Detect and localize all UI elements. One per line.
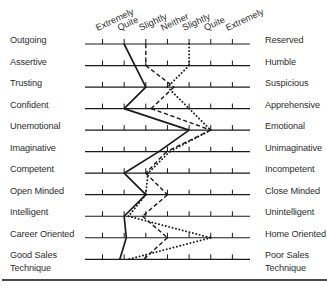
- series-solid-point: [145, 86, 146, 87]
- left-pole-label: Competent: [10, 163, 54, 176]
- series-dotted-point: [128, 259, 129, 260]
- series-dotted-point: [189, 108, 190, 109]
- bottom-divider: [2, 279, 327, 281]
- series-dashed-point: [167, 194, 168, 195]
- series-dotted-segment: [128, 195, 145, 217]
- scale-header-group: ExtremelyQuiteSlightlyNeitherSlightlyQui…: [94, 6, 266, 32]
- series-dashed-segment: [143, 195, 168, 217]
- series-dotted-point: [189, 65, 190, 66]
- left-pole-label: Assertive: [10, 56, 47, 69]
- left-pole-label: Confident: [10, 99, 48, 112]
- series-dotted-segment: [128, 238, 210, 260]
- series-solid-point: [124, 216, 125, 217]
- series-dashed-point: [145, 65, 146, 66]
- right-pole-label: Close Minded: [265, 185, 320, 198]
- series-solid-segment: [120, 238, 126, 260]
- series-dashed-point: [145, 43, 146, 44]
- right-pole-label: Suspicious: [265, 77, 308, 90]
- left-pole-label: Good Sales Technique: [10, 249, 68, 275]
- series-solid-segment: [124, 173, 146, 195]
- right-pole-label: Humble: [265, 56, 296, 69]
- series-solid-segment: [135, 66, 146, 88]
- series-dotted-segment: [170, 130, 211, 152]
- semantic-differential-chart: ExtremelyQuiteSlightlyNeitherSlightlyQui…: [0, 0, 327, 289]
- series-solid-point: [134, 65, 135, 66]
- series-dashed-segment: [144, 238, 168, 260]
- series-dotted-segment: [167, 87, 189, 109]
- series-dotted-segment: [189, 109, 211, 131]
- series-dotted-point: [189, 43, 190, 44]
- series-solid-segment: [124, 195, 146, 217]
- series-dotted-point: [210, 237, 211, 238]
- left-pole-label: Trusting: [10, 77, 42, 90]
- left-pole-label: Unemotional: [10, 120, 60, 133]
- series-dashed-point: [167, 237, 168, 238]
- series-solid-point: [124, 43, 125, 44]
- right-pole-label: Home Oriented: [265, 228, 326, 241]
- series-dotted-point: [147, 173, 148, 174]
- series-solid-segment: [124, 87, 146, 109]
- series-solid-point: [119, 259, 120, 260]
- series-dashed-point: [166, 151, 167, 152]
- series-dotted-point: [128, 216, 129, 217]
- series-dotted-point: [145, 194, 146, 195]
- left-pole-label: Career Oriented: [10, 228, 74, 241]
- right-pole-label: Incompetent: [265, 163, 314, 176]
- right-pole-label: Unimaginative: [265, 142, 322, 155]
- right-pole-label: Apprehensive: [265, 99, 320, 112]
- series-dashed-point: [145, 173, 146, 174]
- series-dotted-point: [167, 86, 168, 87]
- left-pole-label: Intelligent: [10, 206, 48, 219]
- series-solid-segment: [124, 44, 135, 66]
- right-pole-label: Reserved: [265, 34, 304, 47]
- series-dashed-point: [143, 259, 144, 260]
- scale-header-label: Extremely: [224, 6, 266, 32]
- series-solid-point: [158, 151, 159, 152]
- right-pole-label: Unintelligent: [265, 206, 314, 219]
- series-solid-segment: [124, 152, 159, 174]
- series-solid-point: [126, 237, 127, 238]
- series-dashed-point: [173, 86, 174, 87]
- right-pole-label: Poor Sales Technique: [265, 249, 323, 275]
- series-solid-point: [189, 130, 190, 131]
- series-dashed-point: [151, 108, 152, 109]
- left-pole-label: Outgoing: [10, 34, 47, 47]
- series-dashed-point: [142, 216, 143, 217]
- left-pole-label: Imaginative: [10, 142, 56, 155]
- series-solid-point: [124, 108, 125, 109]
- right-pole-label: Emotional: [265, 120, 305, 133]
- series-dotted-point: [169, 151, 170, 152]
- left-pole-label: Open Minded: [10, 185, 64, 198]
- series-dotted-segment: [128, 216, 210, 238]
- series-solid-point: [124, 173, 125, 174]
- series-dashed-segment: [146, 152, 167, 174]
- scale-lines-group: [85, 39, 250, 259]
- series-dotted-point: [210, 130, 211, 131]
- series-dashed-segment: [146, 173, 168, 195]
- series-dotted-segment: [148, 152, 170, 174]
- series-dotted-segment: [146, 173, 148, 195]
- series-dashed-segment: [146, 66, 174, 88]
